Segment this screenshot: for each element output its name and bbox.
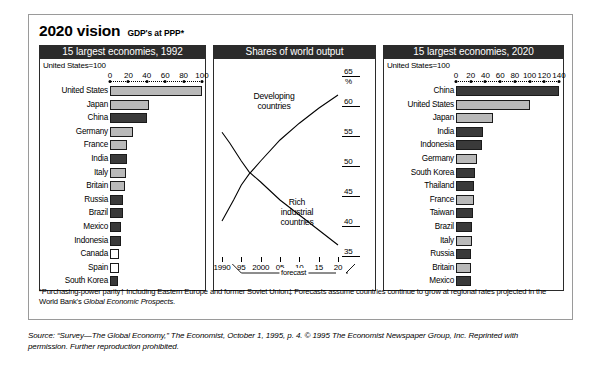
axis-tick-dot <box>528 80 531 83</box>
bar-category-label: Taiwan <box>430 207 454 219</box>
bar <box>456 181 474 191</box>
bar-row: Japan <box>40 99 205 111</box>
axis-tick-dot <box>145 80 148 83</box>
bar-row: Germany <box>40 126 205 138</box>
bar <box>110 100 149 110</box>
bar <box>110 249 119 259</box>
bar-row: South Korea <box>384 167 563 179</box>
bar-row: United States <box>40 85 205 97</box>
axis-tick-dot <box>513 80 516 83</box>
bar-row: Russia <box>384 248 563 260</box>
bar <box>110 263 119 273</box>
bar-category-label: South Korea <box>411 167 454 179</box>
panel-1992-header: 15 largest economies, 1992 <box>39 45 206 59</box>
axis-tick-label: 40 <box>481 71 490 80</box>
axis-tick-dot <box>164 80 167 83</box>
axis-tick-label: 40 <box>142 71 151 80</box>
bar-row: Mexico <box>384 275 563 287</box>
bar <box>456 222 472 232</box>
bar <box>456 276 471 286</box>
bar <box>456 113 493 123</box>
bar <box>110 276 118 286</box>
bar-category-label: Thailand <box>424 180 454 192</box>
bar-category-label: India <box>91 153 108 165</box>
bar-category-label: Britain <box>432 262 454 274</box>
bar-category-label: China <box>434 85 454 97</box>
bar <box>110 86 202 96</box>
bar-row: Italy <box>40 167 205 179</box>
bar-category-label: Spain <box>88 262 108 274</box>
panel-2020-header: 15 largest economies, 2020 <box>383 45 564 59</box>
series-label-developing: Developing countries <box>242 91 306 111</box>
bar-category-label: Mexico <box>83 221 108 233</box>
axis-tick-dot <box>455 80 458 83</box>
bar-row: Mexico <box>40 221 205 233</box>
panel-2020: 15 largest economies, 2020 United States… <box>383 45 564 291</box>
series-label-rich: Rich industrial countries <box>268 197 326 227</box>
axis-tick-dot <box>469 80 472 83</box>
bar-category-label: France <box>84 139 108 151</box>
bar-category-label: Germany <box>422 153 454 165</box>
bar-row: Italy <box>384 235 563 247</box>
bar <box>110 208 123 218</box>
bar <box>456 263 471 273</box>
bar <box>456 195 474 205</box>
bar-row: Germany <box>384 153 563 165</box>
axis-tick-label: 20 <box>466 71 475 80</box>
bar <box>456 236 472 246</box>
bar-row: Indonesia <box>40 235 205 247</box>
bar-category-label: United States <box>61 85 108 97</box>
bar-row: Spain <box>40 262 205 274</box>
bar-category-label: Brazil <box>89 207 108 219</box>
axis-tick-dot <box>499 80 502 83</box>
bar-category-label: China <box>88 112 108 124</box>
axis-tick-dot <box>182 80 185 83</box>
bar-category-label: United States <box>407 99 454 111</box>
bar <box>110 127 133 137</box>
bar-chart-1992: 020406080100United StatesJapanChinaGerma… <box>40 59 205 290</box>
panel-1992-body: United States=100 020406080100United Sta… <box>39 59 206 291</box>
bar-category-label: Germany <box>76 126 108 138</box>
bar-row: India <box>384 126 563 138</box>
bar <box>456 208 473 218</box>
source-line1: Source: “Survey—The Global Economy,” The… <box>28 330 573 341</box>
bar-row: China <box>40 112 205 124</box>
bar <box>456 100 530 110</box>
axis-tick-label: 0 <box>108 71 112 80</box>
bar-chart-2020: 020406080100120140ChinaUnited StatesJapa… <box>384 59 563 290</box>
bar-row: Brazil <box>40 207 205 219</box>
axis-line <box>110 81 202 82</box>
bar-row: India <box>40 153 205 165</box>
bar <box>456 249 471 259</box>
bar-category-label: Mexico <box>429 275 454 287</box>
bar <box>110 113 147 123</box>
figure-frame: 2020 vision GDP's at PPP* 15 largest eco… <box>28 14 573 320</box>
bar-category-label: Russia <box>430 248 454 260</box>
axis-tick-label: 80 <box>179 71 188 80</box>
axis-tick-dot <box>484 80 487 83</box>
bar-category-label: Italy <box>94 167 108 179</box>
axis-tick-label: 0 <box>454 71 458 80</box>
forecast-label: forecast <box>279 268 308 277</box>
line-chart-shares: 35404550556065%199095200005101520forecas… <box>220 63 370 285</box>
panel-2020-body: United States=100 020406080100120140Chin… <box>383 59 564 291</box>
bar <box>456 127 483 137</box>
axis-tick-label: 80 <box>510 71 519 80</box>
bar <box>110 236 121 246</box>
axis-tick-label: 120 <box>538 71 551 80</box>
bar-row: France <box>40 139 205 151</box>
footnote-line2-italic: Global Economic Prospects <box>84 297 174 306</box>
bar-category-label: Canada <box>81 248 108 260</box>
bar-row: Russia <box>40 194 205 206</box>
bar-category-label: Japan <box>87 99 108 111</box>
panel-shares-header: Shares of world output <box>213 45 376 59</box>
axis-tick-dot <box>558 80 561 83</box>
bar-row: China <box>384 85 563 97</box>
source-credit: Source: “Survey—The Global Economy,” The… <box>28 330 573 352</box>
bar-row: Taiwan <box>384 207 563 219</box>
bar-row: Britain <box>40 180 205 192</box>
panel-shares-body: 35404550556065%199095200005101520forecas… <box>213 59 376 291</box>
bar <box>110 168 126 178</box>
bar-row: Indonesia <box>384 139 563 151</box>
bar-row: Japan <box>384 112 563 124</box>
